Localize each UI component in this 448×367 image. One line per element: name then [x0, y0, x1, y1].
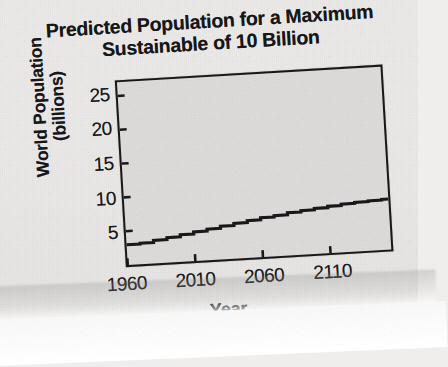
y-tick-label: 20 [71, 118, 112, 142]
plot-svg [117, 67, 391, 265]
chart-title: Predicted Population for a Maximum Susta… [9, 0, 411, 66]
plot-area [115, 65, 394, 268]
y-axis-tick-marks [118, 95, 133, 231]
y-tick-label: 25 [69, 84, 110, 108]
y-axis-tick-labels: 510152025 [65, 81, 120, 270]
y-tick-label: 10 [75, 187, 116, 211]
population-data-line [125, 199, 390, 245]
y-tick-label: 15 [73, 153, 114, 177]
y-tick-label: 5 [77, 222, 118, 246]
